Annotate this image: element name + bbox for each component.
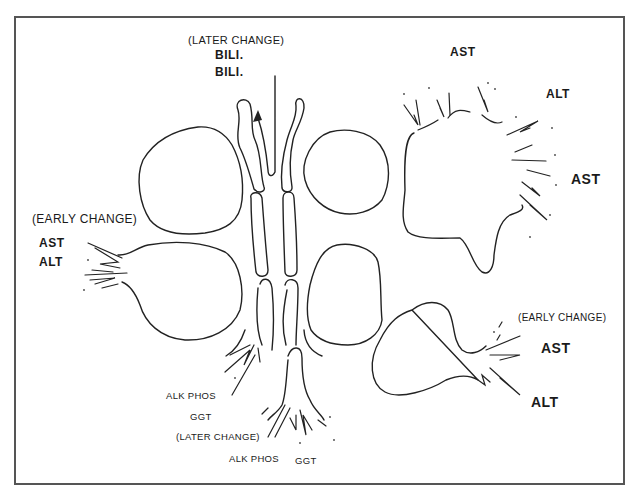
left-early-change-note: (EARLY CHANGE) — [32, 213, 137, 225]
enzyme-leak-left-icon — [83, 243, 127, 291]
hepatocyte-middle-right-upper — [304, 130, 389, 214]
diagram-illustration — [0, 0, 639, 494]
upper-right-alt-label: ALT — [546, 88, 570, 100]
enzyme-leak-upper-right-icon — [403, 82, 557, 238]
arrow-up-icon — [253, 110, 262, 122]
upper-right-ast-label: AST — [450, 46, 476, 58]
bottom-ggt-label: GGT — [295, 456, 316, 466]
lower-right-early-change-note: (EARLY CHANGE) — [518, 313, 606, 323]
top-bili-label-1: BILI. — [215, 49, 244, 61]
bottom-left-alk-phos-label: ALK PHOS — [166, 391, 216, 401]
hepatocyte-upper-left — [139, 127, 242, 234]
hepatocyte-upper-right-injured — [403, 133, 523, 273]
top-bili-label-2: BILI. — [215, 66, 244, 78]
bottom-alk-phos-label: ALK PHOS — [229, 454, 279, 464]
lower-right-alt-label: ALT — [531, 395, 559, 409]
bottom-later-change-note: (LATER CHANGE) — [176, 432, 260, 442]
bottom-left-ggt-label: GGT — [190, 412, 211, 422]
hepatocyte-lower-right-injured — [372, 303, 486, 395]
left-alt-label: ALT — [39, 256, 63, 268]
hepatocyte-left-injured — [118, 242, 242, 340]
hepatocyte-middle-right-lower — [308, 244, 383, 345]
bile-canaliculus — [226, 76, 324, 420]
top-later-change-note: (LATER CHANGE) — [188, 35, 284, 46]
left-ast-label: AST — [39, 237, 65, 249]
lower-right-ast-label: AST — [541, 341, 571, 355]
enzyme-leak-lower-right-icon — [478, 322, 520, 395]
enzyme-leak-bottom-icon — [225, 345, 335, 444]
upper-right-ast-label-2: AST — [571, 172, 601, 186]
